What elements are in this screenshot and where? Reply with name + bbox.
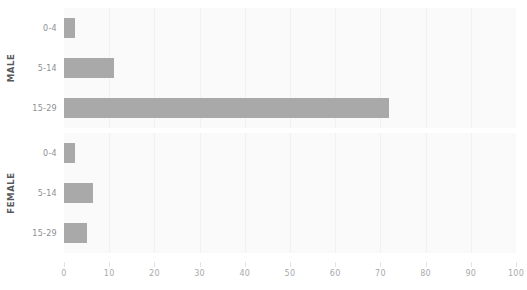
gridline bbox=[471, 133, 472, 253]
x-axis-tick-label: 10 bbox=[104, 269, 115, 278]
gridline bbox=[290, 133, 291, 253]
bar bbox=[64, 58, 114, 79]
x-axis-tick-label: 40 bbox=[239, 269, 250, 278]
bar bbox=[64, 143, 75, 164]
x-axis-tick-mark bbox=[426, 262, 427, 267]
gridline bbox=[380, 133, 381, 253]
x-axis-tick-label: 20 bbox=[149, 269, 160, 278]
x-axis-tick-mark bbox=[516, 262, 517, 267]
x-axis-tick-mark bbox=[154, 262, 155, 267]
x-axis-tick-mark bbox=[471, 262, 472, 267]
gridline bbox=[154, 133, 155, 253]
x-axis-tick-label: 0 bbox=[61, 269, 66, 278]
x-axis-tick-label: 90 bbox=[465, 269, 476, 278]
bar-chart: MALE0-45-1415-29FEMALE0-45-1415-29010203… bbox=[0, 0, 527, 290]
bar bbox=[64, 183, 93, 204]
panel-female bbox=[64, 133, 516, 253]
x-axis-tick-mark bbox=[335, 262, 336, 267]
bar bbox=[64, 98, 389, 119]
x-axis-tick-mark bbox=[200, 262, 201, 267]
x-axis-tick-mark bbox=[380, 262, 381, 267]
facet-strip-female: FEMALE bbox=[0, 133, 22, 253]
gridline bbox=[200, 133, 201, 253]
x-axis-tick-label: 60 bbox=[330, 269, 341, 278]
gridline bbox=[471, 8, 472, 128]
y-axis-tick-label: 15-29 bbox=[32, 229, 57, 238]
gridline bbox=[335, 133, 336, 253]
y-axis-tick-label: 0-4 bbox=[43, 149, 57, 158]
bar bbox=[64, 223, 87, 244]
gridline bbox=[109, 133, 110, 253]
y-axis-labels-male: 0-45-1415-29 bbox=[22, 8, 62, 128]
facet-label: FEMALE bbox=[6, 172, 16, 213]
x-axis-tick-label: 30 bbox=[194, 269, 205, 278]
gridline bbox=[426, 8, 427, 128]
x-axis-tick-label: 100 bbox=[508, 269, 524, 278]
x-axis-tick-label: 80 bbox=[420, 269, 431, 278]
x-axis-tick-label: 50 bbox=[285, 269, 296, 278]
y-axis-tick-label: 15-29 bbox=[32, 104, 57, 113]
y-axis-tick-label: 5-14 bbox=[38, 189, 57, 198]
gridline bbox=[426, 133, 427, 253]
x-axis-tick-mark bbox=[64, 262, 65, 267]
facet-strip-male: MALE bbox=[0, 8, 22, 128]
gridline bbox=[245, 133, 246, 253]
y-axis-labels-female: 0-45-1415-29 bbox=[22, 133, 62, 253]
bar bbox=[64, 18, 75, 39]
x-axis-tick-mark bbox=[109, 262, 110, 267]
y-axis-tick-label: 5-14 bbox=[38, 64, 57, 73]
x-axis-tick-mark bbox=[290, 262, 291, 267]
facet-label: MALE bbox=[6, 54, 16, 83]
y-axis-tick-label: 0-4 bbox=[43, 24, 57, 33]
x-axis-tick-label: 70 bbox=[375, 269, 386, 278]
x-axis-tick-mark bbox=[245, 262, 246, 267]
panel-male bbox=[64, 8, 516, 128]
